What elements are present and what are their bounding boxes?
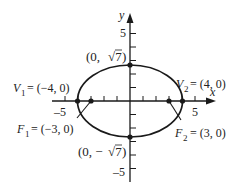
y-axis-arrow-icon bbox=[127, 13, 134, 23]
svg-text:= (4, 0): = (4, 0) bbox=[190, 77, 226, 91]
svg-text:2: 2 bbox=[183, 133, 188, 143]
y-tick-neg5-label: –5 bbox=[112, 165, 125, 179]
top-point-label: (0, √7 ) bbox=[86, 49, 126, 64]
svg-text:F: F bbox=[174, 126, 183, 140]
f1-label: F 1 = (−3, 0) bbox=[16, 122, 74, 139]
minor-bottom-point bbox=[127, 134, 132, 139]
svg-text:(0, −: (0, − bbox=[78, 144, 103, 159]
x-tick-neg5-label: –5 bbox=[53, 105, 66, 119]
svg-text:= (−4, 0): = (−4, 0) bbox=[27, 81, 70, 95]
svg-text:1: 1 bbox=[25, 129, 30, 139]
svg-text:1: 1 bbox=[21, 88, 26, 98]
svg-text:√7: √7 bbox=[108, 49, 122, 64]
svg-text:= (3, 0): = (3, 0) bbox=[190, 126, 226, 140]
vertex-v1-point bbox=[75, 98, 80, 103]
bottom-point-label: (0, − √7 ) bbox=[78, 144, 126, 159]
v2-label: V 2 = (4, 0) bbox=[176, 77, 226, 94]
y-axis-label: y bbox=[118, 8, 125, 22]
svg-text:): ) bbox=[122, 144, 126, 159]
ellipse-diagram: y x –5 5 5 –5 (0, √7 ) (0, − √7 ) V 1 = … bbox=[0, 0, 244, 191]
svg-text:√7: √7 bbox=[108, 144, 122, 159]
x-tick-5-label: 5 bbox=[192, 105, 198, 119]
v1-label: V 1 = (−4, 0) bbox=[13, 81, 70, 98]
vertex-v2-point bbox=[180, 98, 185, 103]
minor-top-point bbox=[127, 62, 132, 67]
svg-text:= (−3, 0): = (−3, 0) bbox=[31, 122, 74, 136]
svg-text:(0,: (0, bbox=[86, 49, 100, 64]
f2-leader-line bbox=[169, 101, 181, 120]
f2-label: F 2 = (3, 0) bbox=[174, 126, 226, 143]
ellipse-plot: y x –5 5 5 –5 (0, √7 ) (0, − √7 ) V 1 = … bbox=[0, 0, 244, 191]
svg-text:): ) bbox=[122, 49, 126, 64]
svg-text:2: 2 bbox=[184, 84, 189, 94]
svg-text:F: F bbox=[16, 122, 25, 136]
y-tick-5-label: 5 bbox=[120, 26, 126, 40]
